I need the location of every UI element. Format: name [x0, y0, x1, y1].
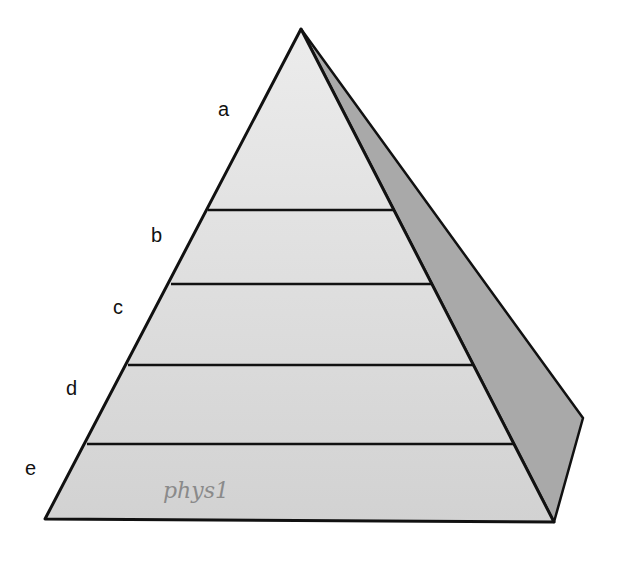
level-label-e: e	[25, 458, 36, 478]
level-label-d: d	[66, 378, 77, 398]
level-label-b: b	[151, 225, 162, 245]
level-label-a: a	[218, 99, 229, 119]
handwritten-note: phys1	[163, 478, 229, 503]
level-label-c: c	[113, 297, 123, 317]
pyramid-graphic	[0, 0, 619, 567]
